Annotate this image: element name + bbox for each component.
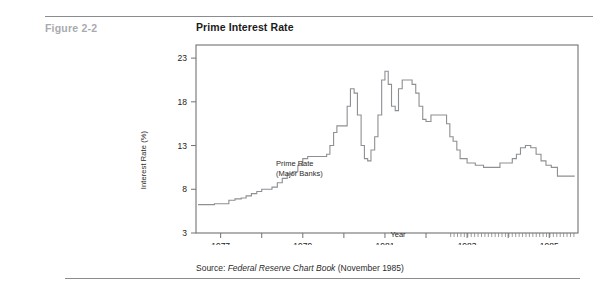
y-axis-title: Interest Rate (%) [139,100,148,220]
x-tick-label: 1985 [540,241,559,245]
y-tick-label: 13 [178,141,188,151]
x-tick-label: 1981 [375,241,394,245]
data-series-prime-rate [198,71,575,204]
source-suffix: (November 1985) [335,263,404,273]
bottom-divider [65,278,580,279]
x-tick-label: 1979 [293,241,312,245]
source-caption: Source: Federal Reserve Chart Book (Nove… [196,263,404,273]
annotation-line-2: (Major Banks) [276,169,323,179]
figure-page: Figure 2-2 Prime Interest Rate Interest … [0,0,602,298]
source-publication: Federal Reserve Chart Book [228,263,336,273]
top-divider [45,16,593,17]
chart-plot-area: Interest Rate (%) 3813182319771979198119… [155,40,595,245]
x-tick-label: 1983 [458,241,477,245]
y-tick-label: 23 [178,53,188,63]
source-prefix: Source: [196,263,228,273]
y-tick-label: 8 [182,184,187,194]
plot-frame [196,45,578,233]
y-tick-label: 18 [178,97,188,107]
prime-rate-line-chart: 3813182319771979198119831985 [155,40,595,245]
x-axis-title-text: Year [390,230,405,239]
x-tick-label: 1977 [211,241,230,245]
chart-title: Prime Interest Rate [196,21,294,33]
figure-number-label: Figure 2-2 [45,22,97,34]
annotation-line-1: Prime Rate [276,159,323,169]
series-annotation: Prime Rate (Major Banks) [276,159,323,178]
x-axis-title: Year [155,230,595,239]
